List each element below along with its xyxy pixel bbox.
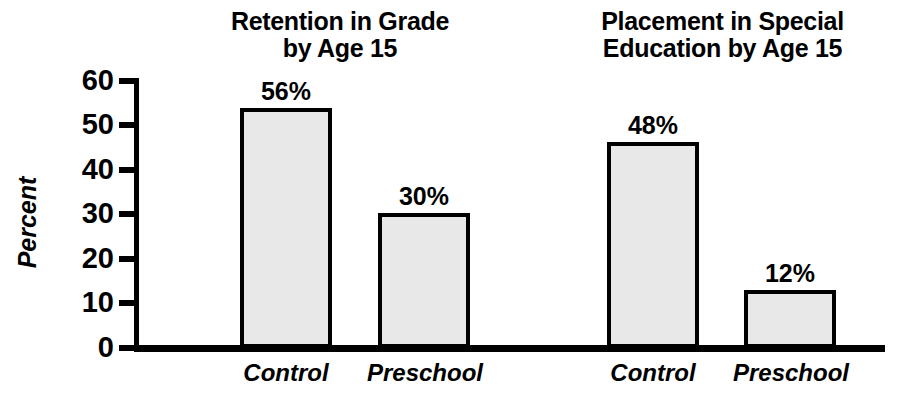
- panel-title-retention: Retention in Grade by Age 15: [180, 8, 500, 62]
- y-tick-label-20: 20: [44, 244, 114, 273]
- y-tick-label-30: 30: [44, 199, 114, 228]
- bar-value-retention-control: 56%: [236, 79, 336, 104]
- x-label-placement-preschool: Preschool: [718, 360, 864, 386]
- bar-value-placement-preschool: 12%: [740, 261, 840, 286]
- bar-chart-figure: Retention in Grade by Age 15 Placement i…: [0, 0, 917, 400]
- panel-title-placement: Placement in Special Education by Age 15: [545, 8, 900, 62]
- bar-retention-control: [240, 108, 332, 348]
- bar-value-placement-control: 48%: [603, 113, 703, 138]
- y-tick-label-40: 40: [44, 155, 114, 184]
- y-tick-50: [119, 122, 135, 128]
- bar-placement-preschool: [744, 290, 836, 348]
- y-axis-title: Percent: [13, 138, 42, 308]
- y-tick-30: [119, 211, 135, 217]
- y-tick-10: [119, 300, 135, 306]
- x-label-retention-control: Control: [216, 360, 356, 386]
- y-tick-label-60: 60: [44, 66, 114, 95]
- x-label-retention-preschool: Preschool: [352, 360, 498, 386]
- y-tick-label-50: 50: [44, 110, 114, 139]
- bar-placement-control: [607, 142, 699, 348]
- y-tick-0: [119, 345, 135, 351]
- y-tick-label-0: 0: [44, 333, 114, 362]
- bar-retention-preschool: [378, 213, 470, 348]
- bar-value-retention-preschool: 30%: [374, 184, 474, 209]
- y-tick-60: [119, 78, 135, 84]
- y-tick-40: [119, 167, 135, 173]
- x-label-placement-control: Control: [583, 360, 723, 386]
- y-tick-20: [119, 256, 135, 262]
- y-tick-label-10: 10: [44, 288, 114, 317]
